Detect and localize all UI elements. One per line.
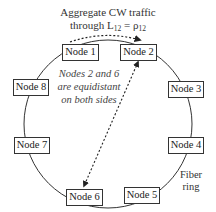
node-7: Node 7 — [14, 137, 50, 154]
equidistant-note: Nodes 2 and 6 are equidistant on both si… — [52, 67, 126, 106]
note-line1: Nodes 2 and 6 — [52, 67, 126, 80]
title-line1: Aggregate CW traffic — [40, 6, 176, 19]
fiber-ring — [24, 40, 192, 208]
note-line2: are equidistant — [52, 80, 126, 93]
fiber-ring-label: Fiber ring — [178, 169, 204, 193]
node-5: Node 5 — [124, 187, 160, 204]
title-line2-mid: = ρ — [121, 19, 138, 31]
node-1: Node 1 — [62, 44, 99, 61]
cw-traffic-arrow — [70, 35, 140, 42]
title-line2: through L12 = ρ12 — [40, 19, 176, 32]
ring-label-line2: ring — [178, 181, 204, 193]
node-3: Node 3 — [168, 81, 204, 98]
node-6: Node 6 — [66, 189, 103, 206]
title-rho-subscript: 12 — [138, 24, 146, 33]
traffic-title: Aggregate CW traffic through L12 = ρ12 — [40, 6, 176, 32]
node-2: Node 2 — [120, 44, 157, 61]
note-line3: on both sides — [52, 93, 126, 106]
title-line2-prefix: through L — [70, 19, 114, 31]
ring-label-line1: Fiber — [178, 169, 204, 181]
node-4: Node 4 — [168, 137, 204, 154]
node-8: Node 8 — [13, 79, 49, 96]
